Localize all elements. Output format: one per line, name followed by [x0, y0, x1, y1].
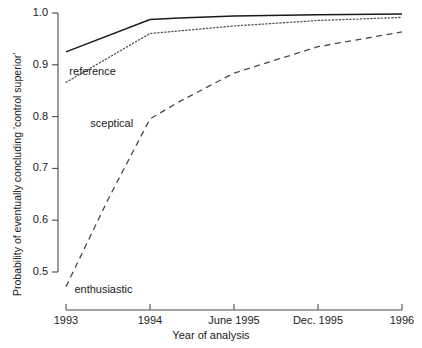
x-axis-title: Year of analysis [0, 329, 422, 341]
y-axis-title: Probability of eventually concluding 'co… [11, 0, 23, 296]
y-tick-label-0.6: 0.6 [0, 213, 48, 225]
y-tick-label-1.0: 1.0 [0, 6, 48, 18]
axis-lines [52, 13, 402, 310]
x-tick-label-1996: 1996 [357, 314, 422, 326]
x-tick-label-june1995: June 1995 [189, 314, 279, 326]
x-tick-label-dec1995: Dec. 1995 [273, 314, 363, 326]
series-label-enthusiastic: enthusiastic [74, 283, 132, 295]
chart-plot-area [0, 0, 422, 348]
x-tick-label-1994: 1994 [105, 314, 195, 326]
series-line-reference [66, 14, 402, 52]
chart-figure: 1.00.90.80.70.60.5 19931994June 1995Dec.… [0, 0, 422, 348]
series-label-reference: reference [69, 65, 115, 77]
series-paths [66, 14, 402, 287]
y-tick-label-0.5: 0.5 [0, 265, 48, 277]
y-tick-label-0.9: 0.9 [0, 58, 48, 70]
series-label-sceptical: sceptical [90, 117, 133, 129]
y-tick-label-0.8: 0.8 [0, 110, 48, 122]
series-line-enthusiastic [66, 32, 402, 287]
y-tick-label-0.7: 0.7 [0, 161, 48, 173]
x-tick-label-1993: 1993 [21, 314, 111, 326]
